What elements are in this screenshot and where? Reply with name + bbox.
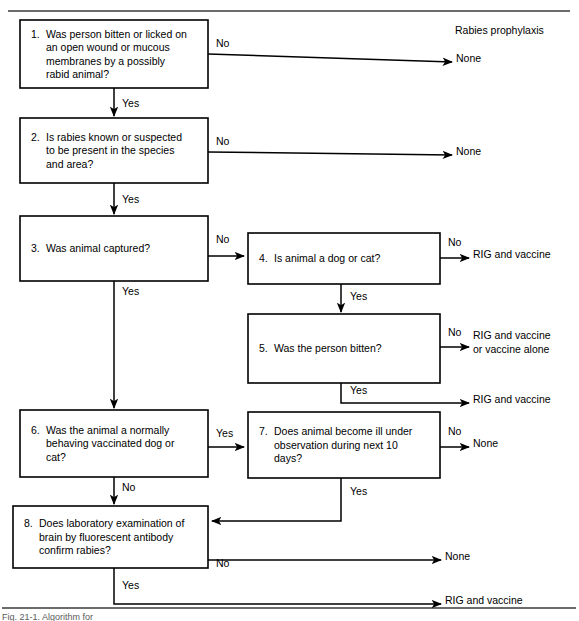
edge-3-no: No	[216, 233, 230, 245]
outcome-2-line-0: None	[456, 145, 481, 157]
outcome-4: RIG and vaccineor vaccine alone	[473, 329, 551, 355]
box-2-number: 2.	[31, 131, 40, 143]
box-2-line-1: to be present in the species	[46, 144, 174, 156]
edge-6-no: No	[122, 481, 136, 493]
box-7[interactable]: 7.Does animal become ill underobservatio…	[248, 412, 440, 478]
box-4-number: 4.	[259, 252, 268, 264]
box-1-line-2: membranes by a possibly	[46, 55, 166, 67]
figure-caption-clipped: Fig. 21-1. Algorithm for	[2, 612, 93, 621]
outcome-3: RIG and vaccine	[473, 248, 551, 260]
box-1-line-3: rabid animal?	[46, 68, 109, 80]
edge-5-yes: Yes	[350, 384, 367, 396]
flowchart-canvas: 1.Was person bitten or licked onan open …	[0, 0, 579, 621]
outcome-5-line-0: RIG and vaccine	[473, 393, 551, 405]
box-3-number: 3.	[31, 242, 40, 254]
edge-7-no: No	[448, 425, 462, 437]
outcome-3-line-0: RIG and vaccine	[473, 248, 551, 260]
outcome-7-line-0: None	[445, 550, 470, 562]
connector-7-yes	[212, 478, 341, 521]
edge-6-yes: Yes	[216, 427, 233, 439]
box-6[interactable]: 6.Was the animal a normallybehaving vacc…	[20, 410, 208, 477]
box-8-number: 8.	[24, 517, 33, 529]
edge-4-no: No	[448, 236, 462, 248]
box-4[interactable]: 4.Is animal a dog or cat?	[248, 233, 440, 284]
edge-2-no: No	[216, 135, 230, 147]
box-6-line-2: cat?	[46, 451, 66, 463]
box-8-line-1: brain by fluorescent antibody	[39, 531, 174, 543]
outcome-6: None	[473, 437, 498, 449]
box-7-line-1: observation during next 10	[274, 439, 398, 451]
edge-1-yes: Yes	[122, 97, 139, 109]
box-1-line-0: Was person bitten or licked on	[46, 28, 187, 40]
box-3-line-0: Was animal captured?	[46, 242, 150, 254]
edge-2-yes: Yes	[122, 193, 139, 205]
box-2[interactable]: 2.Is rabies known or suspectedto be pres…	[20, 118, 208, 183]
box-2-line-2: and area?	[46, 158, 93, 170]
edge-7-yes: Yes	[350, 485, 367, 497]
outcome-6-line-0: None	[473, 437, 498, 449]
edge-3-yes: Yes	[122, 285, 139, 297]
outcome-2: None	[456, 145, 481, 157]
box-6-number: 6.	[31, 424, 40, 436]
box-8[interactable]: 8.Does laboratory examination ofbrain by…	[13, 506, 208, 568]
figure-header-label: Rabies prophylaxis	[455, 24, 544, 36]
box-7-line-2: days?	[274, 452, 302, 464]
connector-1-no	[208, 54, 452, 62]
box-5[interactable]: 5.Was the person bitten?	[248, 314, 440, 383]
box-4-line-0: Is animal a dog or cat?	[274, 252, 380, 264]
box-5-number: 5.	[259, 342, 268, 354]
box-3[interactable]: 3.Was animal captured?	[20, 216, 208, 281]
box-7-number: 7.	[259, 425, 268, 437]
box-5-line-0: Was the person bitten?	[274, 342, 382, 354]
rabies-prophylaxis-flowchart: 1.Was person bitten or licked onan open …	[0, 0, 579, 621]
outcome-8-line-0: RIG and vaccine	[445, 594, 523, 606]
outcome-5: RIG and vaccine	[473, 393, 551, 405]
edge-5-no: No	[448, 326, 462, 338]
outcome-1: None	[456, 52, 481, 64]
outcome-7: None	[445, 550, 470, 562]
box-1-number: 1.	[31, 28, 40, 40]
outcome-4-line-1: or vaccine alone	[473, 343, 550, 355]
edge-8-yes: Yes	[122, 579, 139, 591]
outcome-1-line-0: None	[456, 52, 481, 64]
edge-1-no: No	[216, 37, 230, 49]
box-8-line-0: Does laboratory examination of	[39, 517, 184, 529]
connector-8-yes	[114, 568, 441, 604]
box-2-line-0: Is rabies known or suspected	[46, 131, 182, 143]
box-1-line-1: an open wound or mucous	[46, 41, 170, 53]
edge-4-yes: Yes	[350, 290, 367, 302]
connector-2-no	[208, 152, 452, 155]
box-7-line-0: Does animal become ill under	[274, 425, 413, 437]
outcome-8: RIG and vaccine	[445, 594, 523, 606]
edge-8-no: No	[216, 557, 230, 569]
caption-text: Fig. 21-1. Algorithm for	[2, 612, 93, 621]
box-6-line-0: Was the animal a normally	[46, 424, 170, 436]
box-1[interactable]: 1.Was person bitten or licked onan open …	[20, 20, 208, 88]
box-6-line-1: behaving vaccinated dog or	[46, 437, 175, 449]
outcome-4-line-0: RIG and vaccine	[473, 329, 551, 341]
box-8-line-2: confirm rabies?	[39, 544, 111, 556]
decision-boxes: 1.Was person bitten or licked onan open …	[13, 20, 440, 568]
